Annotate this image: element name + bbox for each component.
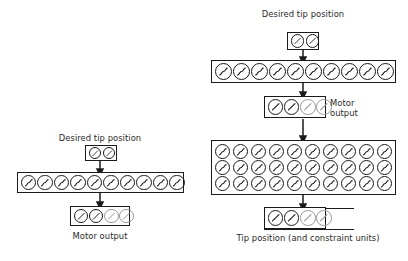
unit-row (74, 209, 127, 224)
figure-canvas: Desired tip position Motor output Desire… (0, 0, 408, 261)
sigmoid-unit-icon (233, 144, 249, 160)
sigmoid-unit-icon (233, 63, 250, 80)
sigmoid-unit-icon (305, 63, 322, 80)
sigmoid-unit-icon (21, 175, 37, 191)
sigmoid-unit-icon (153, 175, 169, 191)
sigmoid-unit-icon (359, 144, 375, 160)
sigmoid-unit-icon (215, 144, 231, 160)
sigmoid-unit-icon (323, 176, 339, 192)
sigmoid-unit-icon (341, 63, 358, 80)
sigmoid-unit-icon (251, 176, 267, 192)
sigmoid-unit-icon (377, 160, 393, 176)
linear-unit-icon (316, 210, 332, 226)
unit-row (215, 160, 393, 176)
right-hidden-layer-2 (211, 140, 396, 195)
sigmoid-unit-icon (377, 63, 394, 80)
sigmoid-unit-icon (359, 176, 375, 192)
linear-unit-icon (300, 99, 316, 115)
linear-unit-icon (103, 147, 116, 160)
right-tip-position-layer (264, 207, 326, 229)
sigmoid-unit-icon (341, 160, 357, 176)
sigmoid-unit-icon (323, 144, 339, 160)
sigmoid-unit-icon (341, 144, 357, 160)
linear-unit-icon (306, 34, 320, 48)
sigmoid-unit-icon (269, 63, 286, 80)
sigmoid-unit-icon (233, 176, 249, 192)
sigmoid-unit-icon (305, 160, 321, 176)
linear-unit-icon (284, 210, 300, 226)
unit-row (291, 34, 316, 48)
right-input-label: Desired tip position (247, 9, 359, 19)
unit-row (215, 176, 393, 192)
sigmoid-unit-icon (305, 176, 321, 192)
sigmoid-unit-icon (215, 176, 231, 192)
unit-row (268, 210, 323, 226)
sigmoid-unit-icon (377, 144, 393, 160)
linear-unit-icon (268, 99, 284, 115)
sigmoid-unit-icon (323, 63, 340, 80)
linear-unit-icon (300, 210, 316, 226)
right-input-layer (287, 32, 319, 50)
sigmoid-unit-icon (251, 144, 267, 160)
unit-row (215, 63, 393, 80)
sigmoid-unit-icon (323, 160, 339, 176)
left-output-label: Motor output (44, 231, 156, 241)
linear-unit-icon (119, 209, 134, 224)
arrow-connectors (0, 0, 408, 261)
right-motor-output-label-line1: Motor (330, 98, 354, 108)
sigmoid-unit-icon (70, 175, 86, 191)
sigmoid-unit-icon (37, 175, 53, 191)
sigmoid-unit-icon (377, 176, 393, 192)
unit-row (215, 144, 393, 160)
sigmoid-unit-icon (269, 160, 285, 176)
left-output-layer (70, 206, 130, 226)
left-input-layer (85, 145, 117, 161)
sigmoid-unit-icon (87, 175, 103, 191)
unit-row (21, 175, 181, 191)
linear-unit-icon (89, 147, 102, 160)
sigmoid-unit-icon (251, 160, 267, 176)
sigmoid-unit-icon (305, 144, 321, 160)
left-input-label: Desired tip position (44, 133, 156, 143)
linear-unit-icon (291, 34, 305, 48)
right-motor-output-label-line2: output (330, 108, 358, 118)
sigmoid-unit-icon (341, 176, 357, 192)
linear-unit-icon (89, 209, 104, 224)
sigmoid-unit-icon (251, 63, 268, 80)
sigmoid-unit-icon (287, 160, 303, 176)
sigmoid-unit-icon (103, 175, 119, 191)
right-hidden-layer-1 (211, 60, 396, 83)
sigmoid-unit-icon (215, 160, 231, 176)
linear-unit-icon (268, 210, 284, 226)
linear-unit-icon (284, 99, 300, 115)
sigmoid-unit-icon (233, 160, 249, 176)
sigmoid-unit-icon (287, 144, 303, 160)
sigmoid-unit-icon (269, 144, 285, 160)
sigmoid-unit-icon (120, 175, 136, 191)
sigmoid-unit-icon (54, 175, 70, 191)
sigmoid-unit-icon (169, 175, 185, 191)
unit-row (268, 99, 323, 115)
sigmoid-unit-icon (359, 160, 375, 176)
sigmoid-unit-icon (136, 175, 152, 191)
unit-row (89, 147, 114, 160)
sigmoid-unit-icon (359, 63, 376, 80)
sigmoid-unit-icon (287, 176, 303, 192)
right-bottom-label: Tip position (and constraint units) (228, 233, 388, 243)
sigmoid-unit-icon (287, 63, 304, 80)
linear-unit-icon (74, 209, 89, 224)
linear-unit-icon (104, 209, 119, 224)
sigmoid-unit-icon (215, 63, 232, 80)
right-motor-output-layer (264, 96, 326, 118)
sigmoid-unit-icon (269, 176, 285, 192)
left-hidden-layer (17, 172, 184, 193)
